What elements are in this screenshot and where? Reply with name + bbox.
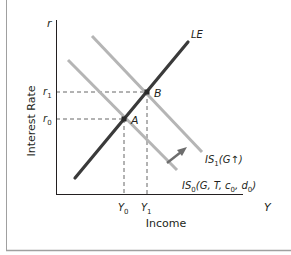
point-a-marker <box>122 117 127 122</box>
tick-y0: Y0 <box>118 202 129 216</box>
shift-arrow-icon <box>167 147 187 163</box>
le-line <box>75 42 188 178</box>
point-b-label: B <box>154 87 162 100</box>
tick-y1: Y1 <box>141 202 152 216</box>
point-a-label: A <box>130 114 139 127</box>
y-axis-title: Interest Rate <box>25 85 38 156</box>
tick-r1: r1 <box>43 86 52 100</box>
y-axis-symbol: r <box>47 17 53 30</box>
is0-label: IS0(G, T, c0, d0) <box>182 180 256 194</box>
diagram-frame: r Y r1 r0 Y0 Y1 Interest Rate Income A B… <box>0 0 291 255</box>
x-axis-symbol: Y <box>264 201 272 214</box>
point-b-marker <box>145 90 150 95</box>
x-axis-title: Income <box>146 217 187 230</box>
tick-r0: r0 <box>43 113 52 127</box>
le-label: LE <box>191 29 204 40</box>
is1-label: IS1(G↑) <box>205 154 243 168</box>
